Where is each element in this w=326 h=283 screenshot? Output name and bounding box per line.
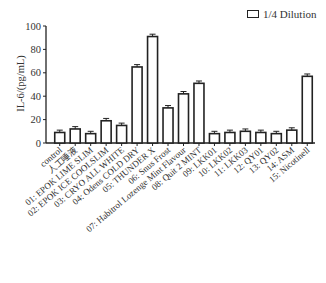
bar-group (225, 130, 235, 146)
bar-group (132, 65, 142, 146)
bar-group (256, 130, 266, 146)
bar-group (209, 131, 219, 146)
bar-group (70, 127, 80, 146)
bar (163, 108, 173, 143)
y-tick-label: 80 (31, 44, 42, 55)
y-tick-label: 100 (25, 21, 41, 32)
bar (194, 83, 204, 143)
bar (86, 134, 96, 143)
bar (101, 121, 111, 143)
bar-group (117, 123, 127, 146)
bar-group (148, 34, 158, 146)
bar-group (194, 81, 204, 146)
bar-group (302, 74, 312, 146)
bar (148, 37, 158, 143)
bar (287, 130, 297, 143)
bar (132, 67, 142, 143)
bar-group (101, 118, 111, 146)
bar (209, 134, 219, 143)
bar (240, 131, 250, 143)
bar (70, 129, 80, 143)
y-tick-label: 20 (31, 114, 42, 125)
y-tick-label: 60 (31, 67, 42, 78)
bar-chart: 020406080100control人工唾液01: EPOK LIME SLI… (0, 0, 326, 283)
bar (55, 132, 65, 143)
bar (179, 94, 189, 143)
bar (302, 76, 312, 143)
bar-group (271, 131, 281, 146)
bar (117, 125, 127, 143)
bar-group (287, 128, 297, 146)
bar-group (163, 106, 173, 146)
bar (271, 134, 281, 143)
bar (225, 132, 235, 143)
bar (256, 132, 266, 143)
bar-group (86, 131, 96, 146)
y-tick-label: 0 (36, 138, 41, 149)
bar-group (240, 129, 250, 146)
bar-group (55, 130, 65, 146)
y-tick-label: 40 (31, 91, 42, 102)
bar-group (179, 92, 189, 146)
